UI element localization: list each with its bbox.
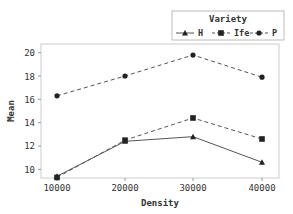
legend-entry: P <box>272 28 277 38</box>
x-tick-label: 10000 <box>43 183 70 193</box>
y-tick-label: 12 <box>24 141 35 151</box>
series-line-h <box>57 137 262 177</box>
legend-title: Variety <box>209 14 248 24</box>
x-axis-label: Density <box>141 198 180 208</box>
square-marker <box>54 175 60 181</box>
x-tick-label: 20000 <box>111 183 138 193</box>
circle-marker <box>54 93 59 98</box>
plot-frame <box>41 44 279 178</box>
y-axis-label: Mean <box>6 100 16 122</box>
y-tick-label: 16 <box>24 95 35 105</box>
legend-entry: H <box>198 28 203 38</box>
chart: 10121416182010000200003000040000DensityM… <box>0 0 293 214</box>
y-tick-label: 18 <box>24 72 35 82</box>
square-marker <box>259 136 265 142</box>
legend-circle-icon <box>256 30 261 35</box>
y-tick-label: 14 <box>24 118 35 128</box>
x-tick-label: 30000 <box>179 183 206 193</box>
y-tick-label: 10 <box>24 165 35 175</box>
series-line-p <box>57 55 262 96</box>
legend-square-icon <box>218 30 224 36</box>
square-marker <box>122 137 128 143</box>
circle-marker <box>190 52 195 57</box>
x-tick-label: 40000 <box>248 183 275 193</box>
y-tick-label: 20 <box>24 48 35 58</box>
circle-marker <box>259 75 264 80</box>
legend-entry: Ife <box>234 28 249 38</box>
square-marker <box>190 115 196 121</box>
line-chart: 10121416182010000200003000040000DensityM… <box>0 0 293 214</box>
circle-marker <box>122 73 127 78</box>
series-line-ife <box>57 118 262 177</box>
